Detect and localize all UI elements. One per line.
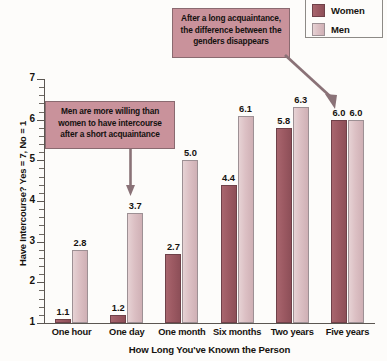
y-axis-tick-label-1: 1 <box>15 316 35 327</box>
x-axis-line <box>44 323 375 324</box>
y-axis-tick-label-7: 7 <box>15 72 35 83</box>
bar-women-six-months[interactable] <box>221 185 237 323</box>
bar-women-two-years[interactable] <box>276 128 292 323</box>
bar-women-one-day[interactable] <box>110 315 126 323</box>
y-axis-tick-6 <box>37 120 44 121</box>
y-axis-tick-label-3: 3 <box>15 235 35 246</box>
bar-value-label: 5.0 <box>175 148 205 158</box>
bar-men-five-years[interactable] <box>348 120 364 323</box>
bar-men-one-hour[interactable] <box>72 250 88 323</box>
y-axis-tick-1 <box>37 323 44 324</box>
x-axis-title: How Long You've Known the Person <box>44 344 375 355</box>
bar-men-two-years[interactable] <box>293 107 309 323</box>
annotation-long-line2: the difference between the <box>178 25 284 37</box>
bar-women-one-hour[interactable] <box>55 319 71 323</box>
chart-legend: Women Men <box>305 0 383 38</box>
legend-item-women: Women <box>312 2 382 19</box>
y-axis-tick-3 <box>37 242 44 243</box>
y-axis-tick-label-2: 2 <box>15 275 35 286</box>
y-axis-tick-5 <box>37 160 44 161</box>
bar-men-one-day[interactable] <box>127 213 143 323</box>
y-axis-tick-7 <box>37 79 44 80</box>
bar-value-label: 3.7 <box>120 201 150 211</box>
bar-women-one-month[interactable] <box>165 254 181 323</box>
y-axis-tick-4 <box>37 201 44 202</box>
y-axis-tick-label-5: 5 <box>15 153 35 164</box>
bar-men-six-months[interactable] <box>238 116 254 323</box>
y-axis-tick-label-6: 6 <box>15 113 35 124</box>
legend-label-women: Women <box>331 5 365 16</box>
y-axis-tick-label-4: 4 <box>15 194 35 205</box>
plot-area: 1.12.81.23.72.75.04.46.15.86.36.06.0 <box>44 79 375 323</box>
legend-label-men: Men <box>331 24 350 35</box>
legend-swatch-men <box>312 23 325 36</box>
legend-item-men: Men <box>312 21 382 38</box>
bar-value-label: 6.1 <box>231 104 261 114</box>
annotation-long-line3: genders disappears <box>178 36 284 48</box>
bar-men-one-month[interactable] <box>182 160 198 323</box>
y-axis-tick-2 <box>37 282 44 283</box>
annotation-long-acquaintance: After a long acquaintance, the differenc… <box>172 8 290 58</box>
annotation-long-line1: After a long acquaintance, <box>178 13 284 25</box>
bar-chart-figure: Women Men After a long acquaintance, the… <box>0 0 387 361</box>
x-axis-tick-label-five-years: Five years <box>312 327 382 337</box>
bar-women-five-years[interactable] <box>331 120 347 323</box>
bar-value-label: 6.0 <box>341 108 371 118</box>
bar-value-label: 2.8 <box>65 238 95 248</box>
legend-swatch-women <box>312 4 325 17</box>
bar-value-label: 6.3 <box>286 95 316 105</box>
